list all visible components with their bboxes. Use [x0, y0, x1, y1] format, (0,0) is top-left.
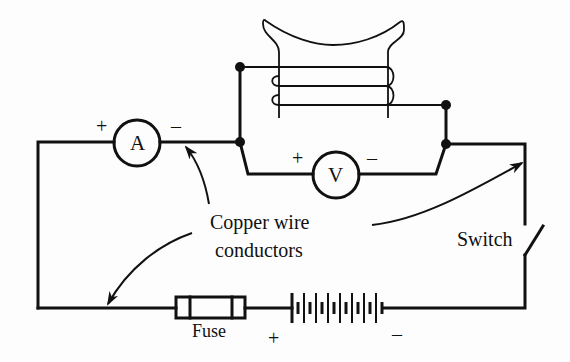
fuse-icon	[176, 297, 245, 318]
arrow-to-right-wire	[372, 163, 522, 225]
annotation-conductors: conductors	[215, 240, 303, 260]
electromagnet-core-icon	[263, 20, 404, 118]
coil-icon	[240, 67, 446, 105]
callout-arrows	[108, 147, 522, 304]
battery-icon	[292, 293, 382, 323]
fuse-label: Fuse	[192, 322, 226, 340]
voltmeter-label: V	[328, 165, 343, 186]
voltmeter-plus-sign: +	[292, 148, 303, 168]
battery-minus-sign: –	[392, 324, 402, 344]
battery-plus-sign: +	[268, 328, 279, 348]
switch-label: Switch	[457, 229, 513, 249]
junction-dot-left	[235, 137, 245, 147]
circuit-diagram: + A – + V – Copper wire conductors Switc…	[0, 0, 570, 362]
ammeter-plus-sign: +	[96, 116, 107, 136]
annotation-copper-wire: Copper wire	[210, 212, 309, 232]
arrow-to-bottom-wire	[108, 233, 192, 304]
switch-icon	[525, 226, 543, 255]
voltmeter-minus-sign: –	[367, 148, 377, 168]
ammeter-label: A	[130, 133, 145, 154]
junction-dot-right	[441, 139, 451, 149]
ammeter-minus-sign: –	[171, 116, 181, 136]
circuit-drawing	[0, 0, 570, 362]
arrow-to-ammeter-wire	[186, 147, 209, 204]
wires	[38, 67, 525, 308]
